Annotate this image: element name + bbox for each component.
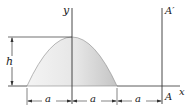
h-arrow-up-icon — [11, 37, 14, 42]
x-axis-label: x — [179, 87, 185, 97]
dim-a-label-2: a — [90, 94, 96, 104]
h-arrow-down-icon — [11, 81, 14, 86]
dim-a-label-3: a — [135, 94, 141, 104]
diagram-canvas — [0, 0, 187, 107]
y-axis-label: y — [63, 5, 69, 16]
a-prime-label: A′ — [165, 6, 175, 16]
point-a-label: A — [165, 92, 172, 102]
height-label: h — [6, 56, 13, 67]
dim-a-label-1: a — [45, 94, 51, 104]
